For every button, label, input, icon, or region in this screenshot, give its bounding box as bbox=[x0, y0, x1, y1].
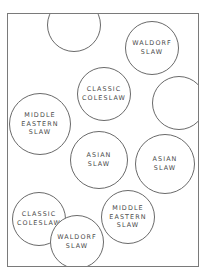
circle-waldorf-slaw-bottom: WALDORF SLAW bbox=[50, 215, 104, 267]
label-line: ASIAN bbox=[153, 155, 178, 164]
label-line: SLAW bbox=[141, 48, 164, 57]
circle-asian-slaw-right: ASIAN SLAW bbox=[135, 134, 195, 194]
label-line: SLAW bbox=[154, 164, 177, 173]
circle-asian-slaw-center: ASIAN SLAW bbox=[70, 131, 128, 189]
label-line: MIDDLE bbox=[24, 111, 55, 120]
label-line: SLAW bbox=[29, 128, 52, 137]
label-line: SLAW bbox=[117, 221, 140, 230]
label-line: CLASSIC bbox=[22, 210, 57, 219]
circle-blank-top bbox=[47, 13, 101, 52]
label-line: ASIAN bbox=[87, 151, 112, 160]
label-line: MIDDLE bbox=[112, 204, 143, 213]
circle-middle-eastern-slaw-bottom: MIDDLE EASTERN SLAW bbox=[101, 190, 155, 244]
label-line: WALDORF bbox=[132, 39, 172, 48]
circle-waldorf-slaw-top: WALDORF SLAW bbox=[125, 21, 179, 75]
label-line: CLASSIC bbox=[87, 85, 122, 94]
label-line: EASTERN bbox=[21, 120, 58, 129]
label-line: EASTERN bbox=[109, 213, 146, 222]
circle-blank-right bbox=[152, 76, 199, 130]
circle-middle-eastern-slaw-left: MIDDLE EASTERN SLAW bbox=[9, 93, 71, 155]
label-line: SLAW bbox=[66, 242, 89, 251]
label-line: COLESLAW bbox=[82, 94, 126, 103]
circle-classic-coleslaw-top: CLASSIC COLESLAW bbox=[77, 67, 131, 121]
label-line: SLAW bbox=[88, 160, 111, 169]
label-line: WALDORF bbox=[57, 233, 97, 242]
diagram-frame: WALDORF SLAW CLASSIC COLESLAW MIDDLE EAS… bbox=[7, 13, 199, 267]
